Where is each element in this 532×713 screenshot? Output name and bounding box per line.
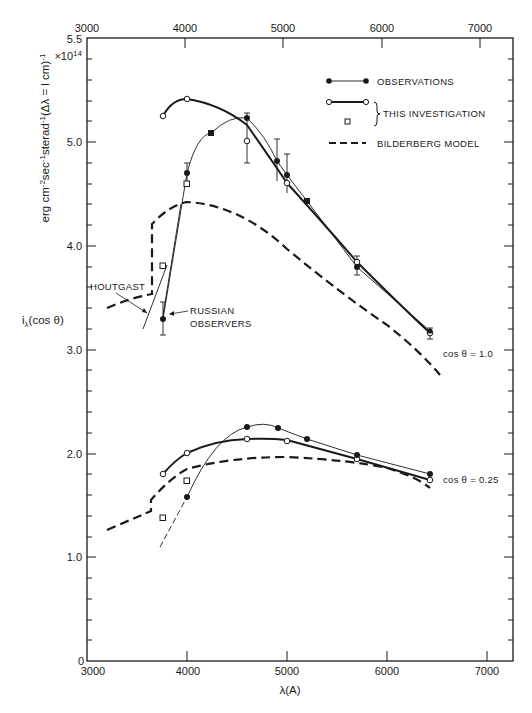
ylabel-part: sterad [39,123,51,155]
right-y-axis-ticks [504,59,513,640]
y-multiplier: ×1014 [54,49,82,62]
cos-theta-025-label: cos θ = 0.25 [443,474,499,485]
y-multiplier-base: ×10 [54,50,73,62]
russian-observers-line [163,204,181,315]
legend-brace-icon [374,102,380,126]
left-y-axis-ticks [87,59,96,640]
legend-this-investigation-label: THIS INVESTIGATION [383,108,485,119]
y-tick-4-0: 4.0 [67,240,82,252]
y-tick-0: 0 [78,655,84,667]
legend-filled-circle-icon [326,78,332,84]
x-bottom-tick-4000: 4000 [176,665,200,677]
x-bottom-tick-5000: 5000 [275,665,299,677]
ylabel-sup: -1 [38,53,47,61]
top-x-tick-labels: 3000 4000 5000 6000 7000 [75,22,492,34]
legend-observations-label: OBSERVATIONS [377,76,454,87]
y-multiplier-exp: 14 [73,49,82,58]
this-investigation-squares-upper [160,181,190,269]
legend-open-square-icon [345,119,350,124]
legend-open-circle-icon [326,99,331,104]
bilderberg-curve-upper [107,202,440,375]
ylabel2-rest: (cos θ) [29,314,64,326]
y-axis-title: erg cm-2sec-1sterad-1(Δλ = l cm)-1 [38,53,51,222]
bilderberg-curve-lower [107,457,430,530]
y-tick-3-0: 3.0 [67,344,82,356]
bottom-x-axis [187,651,487,661]
x-bottom-tick-7000: 7000 [475,665,499,677]
x-top-tick-5000: 5000 [271,22,295,34]
this-investigation-curve-lower [163,439,430,480]
x-bottom-tick-3000: 3000 [81,665,105,677]
x-top-tick-4000: 4000 [173,22,197,34]
russian-label-line2: OBSERVERS [190,318,252,329]
russian-arrowhead-icon [169,311,174,316]
ylabel-part: sec [39,162,51,180]
observations-extrapolation-lower [160,497,187,547]
this-investigation-curve-upper [163,99,430,333]
legend-filled-circle-icon [363,78,369,84]
y-tick-1-0: 1.0 [67,551,82,563]
ylabel-part: erg cm [39,187,51,222]
y-tick-2-0: 2.0 [67,448,82,460]
this-investigation-markers-upper [160,96,433,336]
x-axis-title: λ(A) [279,684,300,696]
legend: OBSERVATIONS THIS INVESTIGATION BILDERBE… [326,76,485,149]
spectral-intensity-chart: 3000 4000 5000 6000 7000 3000 4000 5000 … [0,0,532,713]
ylabel-part: (Δλ = l cm) [39,61,51,116]
houtgast-label: HOUTGAST [90,281,145,292]
x-top-tick-7000: 7000 [468,22,492,34]
x-bottom-tick-6000: 6000 [375,665,399,677]
legend-open-circle-icon [363,99,368,104]
y-axis-secondary-label: iλ(cos θ) [22,314,64,329]
legend-bilderberg-label: BILDERBERG MODEL [377,138,479,149]
houtgast-arrowhead-icon [142,308,147,313]
y-tick-labels: 5.5 ×1014 5.0 4.0 3.0 2.0 1.0 0 [54,33,84,667]
bottom-x-tick-labels: 3000 4000 5000 6000 7000 [81,665,499,677]
x-top-tick-6000: 6000 [370,22,394,34]
observations-curve-upper [163,118,430,331]
y-tick-5-0: 5.0 [67,136,82,148]
top-x-axis [185,38,480,48]
russian-label-line1: RUSSIAN [190,305,234,316]
cos-theta-1-label: cos θ = 1.0 [443,348,493,359]
y-tick-5-5: 5.5 [67,33,82,45]
